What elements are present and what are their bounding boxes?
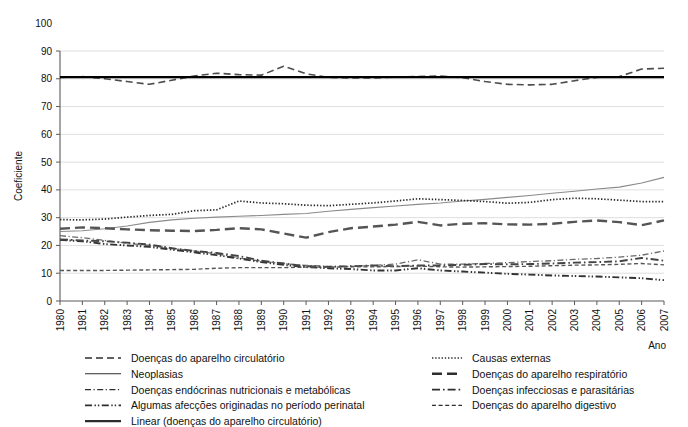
legend-item[interactable]: Doenças endócrinas nutricionais e metabó… xyxy=(85,384,350,396)
x-tick-label: 2006 xyxy=(636,309,647,332)
y-tick-label: 70 xyxy=(41,101,53,112)
series-line xyxy=(60,66,664,85)
legend-label: Doenças do aparelho circulatório xyxy=(131,352,285,364)
legend-item[interactable]: Algumas afecções originadas no período p… xyxy=(85,399,364,411)
x-axis: 1980198119821983198419851986198719881989… xyxy=(55,301,670,331)
line-chart-svg: 1009080706050403020100Coeficiente1980198… xyxy=(0,0,688,427)
x-tick-label: 1995 xyxy=(390,309,401,332)
y-tick-label: 50 xyxy=(41,157,53,168)
y-axis: 1009080706050403020100 xyxy=(35,18,60,307)
x-tick-label: 1994 xyxy=(368,309,379,332)
x-tick-label: 1999 xyxy=(480,309,491,332)
x-tick-label: 1986 xyxy=(189,309,200,332)
y-tick-label: 100 xyxy=(35,18,52,29)
series-group xyxy=(60,66,664,280)
y-axis-title: Coeficiente xyxy=(13,151,24,201)
x-tick-label: 2004 xyxy=(591,309,602,332)
x-tick-label: 1988 xyxy=(233,309,244,332)
y-tick-label: 90 xyxy=(41,46,53,57)
legend-label: Neoplasias xyxy=(131,368,183,380)
y-tick-label: 10 xyxy=(41,268,53,279)
series-line xyxy=(60,236,664,267)
x-tick-label: 1990 xyxy=(278,309,289,332)
x-tick-label: 1984 xyxy=(144,309,155,332)
x-tick-label: 1997 xyxy=(435,309,446,332)
x-tick-label: 1991 xyxy=(301,309,312,332)
y-tick-label: 60 xyxy=(41,129,53,140)
x-tick-label: 2007 xyxy=(659,309,670,332)
x-tick-label: 1998 xyxy=(457,309,468,332)
legend-label: Doenças endócrinas nutricionais e metabó… xyxy=(131,384,350,396)
x-tick-label: 1981 xyxy=(77,309,88,332)
x-tick-label: 2000 xyxy=(502,309,513,332)
series-line xyxy=(60,198,664,220)
x-tick-label: 2005 xyxy=(614,309,625,332)
y-tick-label: 80 xyxy=(41,73,53,84)
y-tick-label: 0 xyxy=(46,296,52,307)
y-tick-label: 20 xyxy=(41,240,53,251)
x-tick-label: 1982 xyxy=(99,309,110,332)
legend-item[interactable]: Doenças do aparelho digestivo xyxy=(432,399,616,411)
y-tick-label: 30 xyxy=(41,212,53,223)
legend: Doenças do aparelho circulatórioNeoplasi… xyxy=(85,352,634,427)
series-line xyxy=(60,239,664,266)
legend-label: Linear (doenças do aparelho circulatório… xyxy=(131,415,322,427)
y-tick-label: 40 xyxy=(41,184,53,195)
x-tick-label: 2002 xyxy=(547,309,558,332)
series-line xyxy=(60,220,664,237)
x-tick-label: 1983 xyxy=(122,309,133,332)
x-tick-label: 1985 xyxy=(166,309,177,332)
legend-item[interactable]: Doenças do aparelho respiratório xyxy=(432,368,627,380)
x-tick-label: 2003 xyxy=(569,309,580,332)
x-tick-label: 2001 xyxy=(524,309,535,332)
x-tick-label: 1992 xyxy=(323,309,334,332)
x-axis-title: Ano xyxy=(648,340,666,351)
legend-item[interactable]: Doenças do aparelho circulatório xyxy=(85,352,285,364)
legend-item[interactable]: Doenças infecciosas e parasitárias xyxy=(432,384,634,396)
legend-label: Doenças do aparelho digestivo xyxy=(472,399,616,411)
x-tick-label: 1989 xyxy=(256,309,267,332)
x-tick-label: 1996 xyxy=(412,309,423,332)
legend-item[interactable]: Causas externas xyxy=(432,352,551,364)
legend-item[interactable]: Neoplasias xyxy=(85,368,183,380)
legend-label: Causas externas xyxy=(472,352,551,364)
legend-label: Doenças do aparelho respiratório xyxy=(472,368,627,380)
x-tick-label: 1987 xyxy=(211,309,222,332)
legend-item[interactable]: Linear (doenças do aparelho circulatório… xyxy=(85,415,322,427)
chart-figure: 1009080706050403020100Coeficiente1980198… xyxy=(0,0,688,427)
x-tick-label: 1993 xyxy=(345,309,356,332)
legend-label: Doenças infecciosas e parasitárias xyxy=(472,384,634,396)
x-tick-label: 1980 xyxy=(55,309,66,332)
legend-label: Algumas afecções originadas no período p… xyxy=(131,399,364,411)
